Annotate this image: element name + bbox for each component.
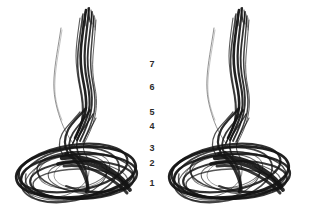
- axis-label-7: 7: [143, 60, 161, 69]
- axis-label-2: 2: [143, 159, 161, 168]
- attractor-ink-left: [14, 8, 139, 211]
- attractor-plot-right: [157, 0, 307, 224]
- right-stereo-view: [157, 0, 307, 224]
- axis-label-1: 1: [143, 179, 161, 188]
- attractor-plot-left: [0, 0, 150, 224]
- axis-label-3: 3: [143, 144, 161, 153]
- vertical-tick-label-column: 7 6 5 4 3 2 1: [143, 0, 161, 224]
- axis-label-6: 6: [143, 83, 161, 92]
- attractor-ink-right: [167, 8, 292, 211]
- left-stereo-view: [0, 0, 150, 224]
- figure-root: 7 6 5 4 3 2 1: [0, 0, 309, 224]
- axis-label-4: 4: [143, 122, 161, 131]
- axis-label-5: 5: [143, 108, 161, 117]
